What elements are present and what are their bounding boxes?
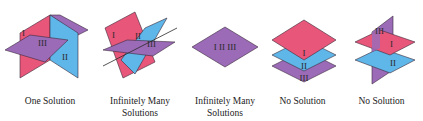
two-parallel-one-crossing-diagram: III I II [340, 0, 423, 90]
parallel-planes-diagram: I II III [260, 0, 345, 90]
label-plane-III: III [147, 39, 156, 49]
figure-infinitely-many-line: I II III Infinitely Many Solutions [95, 0, 185, 121]
figure-no-solution-parallel: I II III No Solution [260, 0, 345, 121]
label-plane-II: II [135, 31, 141, 41]
label-planes-coincident: I II III [214, 42, 236, 52]
coincident-planes-diagram: I II III [180, 0, 270, 90]
label-plane-II: II [390, 58, 396, 68]
label-plane-I: I [22, 28, 25, 38]
caption: No Solution [260, 95, 345, 107]
three-planes-intersect-point-diagram: I III II [0, 0, 100, 90]
label-plane-II: II [62, 52, 68, 62]
figure-no-solution-mixed: III I II No Solution [340, 0, 423, 121]
caption: Infinitely Many Solutions [95, 95, 185, 119]
label-plane-I: I [303, 48, 306, 58]
figure-infinitely-many-coincident: I II III Infinitely Many Solutions [180, 0, 270, 121]
caption: One Solution [0, 95, 100, 107]
label-plane-III: III [38, 38, 47, 48]
three-planes-intersect-line-diagram: I II III [95, 0, 185, 90]
caption: Infinitely Many Solutions [180, 95, 270, 119]
label-plane-I: I [112, 30, 115, 40]
label-plane-I: I [390, 39, 393, 49]
figure-one-solution: I III II One Solution [0, 0, 100, 121]
caption: No Solution [340, 95, 423, 107]
label-plane-II: II [301, 61, 307, 71]
label-plane-III: III [300, 73, 309, 83]
label-plane-III: III [375, 26, 384, 36]
